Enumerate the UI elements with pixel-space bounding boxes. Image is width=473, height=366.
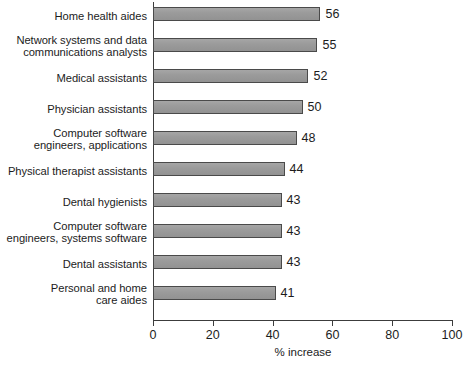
bar-row: Medical assistants52 bbox=[0, 62, 473, 93]
category-label: Medical assistants bbox=[0, 71, 147, 84]
bar-chart: Home health aides56Network systems and d… bbox=[0, 0, 473, 366]
bar-row: Dental assistants43 bbox=[0, 248, 473, 279]
bar-row: Physical therapist assistants44 bbox=[0, 155, 473, 186]
bar-fill bbox=[153, 193, 282, 207]
bar-fill bbox=[153, 69, 308, 83]
bar bbox=[153, 131, 297, 145]
x-tick-label: 20 bbox=[206, 328, 220, 342]
bar-value-label: 43 bbox=[287, 255, 301, 269]
bar bbox=[153, 69, 308, 83]
bar-fill bbox=[153, 131, 297, 145]
category-label: Physical therapist assistants bbox=[0, 164, 147, 177]
x-tick-mark bbox=[392, 321, 393, 326]
bar-value-label: 43 bbox=[287, 193, 301, 207]
bar-fill bbox=[153, 7, 320, 21]
bar-row: Computer software engineers, application… bbox=[0, 124, 473, 155]
x-tick-mark bbox=[332, 321, 333, 326]
bar bbox=[153, 255, 282, 269]
category-label: Computer software engineers, application… bbox=[0, 127, 147, 152]
bar-value-label: 44 bbox=[290, 162, 304, 176]
bar-value-label: 48 bbox=[302, 131, 316, 145]
bar bbox=[153, 286, 276, 300]
bar-row: Physician assistants50 bbox=[0, 93, 473, 124]
bar-row: Home health aides56 bbox=[0, 0, 473, 31]
x-tick-label: 100 bbox=[442, 328, 463, 342]
bar-value-label: 41 bbox=[281, 286, 295, 300]
bar bbox=[153, 224, 282, 238]
bar-value-label: 43 bbox=[287, 224, 301, 238]
x-tick-mark bbox=[273, 321, 274, 326]
x-tick-label: 40 bbox=[266, 328, 280, 342]
bar-value-label: 52 bbox=[313, 69, 327, 83]
bar-fill bbox=[153, 100, 303, 114]
bar bbox=[153, 100, 303, 114]
x-tick-mark bbox=[153, 321, 154, 326]
bar-fill bbox=[153, 162, 285, 176]
x-tick-mark bbox=[213, 321, 214, 326]
category-label: Home health aides bbox=[0, 9, 147, 22]
bar bbox=[153, 162, 285, 176]
category-label: Dental hygienists bbox=[0, 195, 147, 208]
bar-value-label: 50 bbox=[308, 100, 322, 114]
x-tick-label: 80 bbox=[385, 328, 399, 342]
category-label: Network systems and data communications … bbox=[0, 34, 147, 59]
category-label: Physician assistants bbox=[0, 102, 147, 115]
bar-fill bbox=[153, 224, 282, 238]
bar-fill bbox=[153, 286, 276, 300]
bar-row: Network systems and data communications … bbox=[0, 31, 473, 62]
bar-value-label: 55 bbox=[322, 38, 336, 52]
bar-fill bbox=[153, 255, 282, 269]
x-tick-mark bbox=[452, 321, 453, 326]
x-tick-label: 60 bbox=[325, 328, 339, 342]
bar-value-label: 56 bbox=[325, 7, 339, 21]
bar-row: Dental hygienists43 bbox=[0, 186, 473, 217]
category-label: Dental assistants bbox=[0, 257, 147, 270]
x-axis-title: % increase bbox=[153, 346, 453, 358]
bar-row: Computer software engineers, systems sof… bbox=[0, 217, 473, 248]
x-tick-label: 0 bbox=[150, 328, 157, 342]
bar-row: Personal and home care aides41 bbox=[0, 279, 473, 310]
category-label: Computer software engineers, systems sof… bbox=[0, 220, 147, 245]
bar bbox=[153, 7, 320, 21]
bar bbox=[153, 193, 282, 207]
category-label: Personal and home care aides bbox=[0, 282, 147, 307]
bar-fill bbox=[153, 38, 317, 52]
bar bbox=[153, 38, 317, 52]
x-axis-line bbox=[153, 320, 453, 321]
